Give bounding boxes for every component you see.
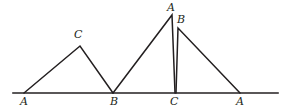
right-triangle-outline <box>176 28 240 93</box>
label-base-c: C <box>170 96 178 107</box>
label-base-b: B <box>110 96 118 107</box>
left-triangle-outline <box>24 46 113 93</box>
label-apex-b-right: B <box>177 14 185 25</box>
figure-canvas: C A B A B C A <box>0 0 287 111</box>
label-base-a-left: A <box>20 96 28 107</box>
middle-triangle-outline <box>113 15 175 93</box>
label-apex-a-middle: A <box>167 2 175 13</box>
label-apex-c-left: C <box>74 29 82 40</box>
label-base-a-right: A <box>236 96 244 107</box>
